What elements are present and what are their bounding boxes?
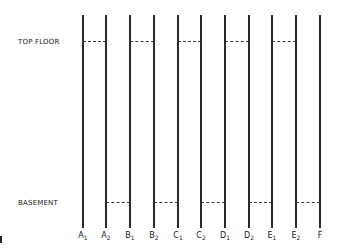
wire-line-f <box>319 15 321 228</box>
wire-line-e2 <box>295 15 297 228</box>
column-label-c2: C2 <box>196 231 205 241</box>
wire-line-a2 <box>105 15 107 228</box>
column-label-b2: B2 <box>149 231 158 241</box>
top-floor-connection-b1-b2 <box>130 41 154 43</box>
top-floor-connection-e1-e2 <box>272 41 296 43</box>
wire-line-c1 <box>177 15 179 228</box>
column-label-c1: C1 <box>173 231 182 241</box>
wire-line-e1 <box>271 15 273 228</box>
wire-line-c2 <box>200 15 202 228</box>
wire-line-a1 <box>82 15 84 228</box>
wire-line-b1 <box>129 15 131 228</box>
column-label-d1: D1 <box>220 231 230 241</box>
column-label-e2: E2 <box>292 231 301 241</box>
basement-label: BASEMENT <box>18 199 58 207</box>
basement-connection-c2-d1 <box>201 202 225 204</box>
column-label-d2: D2 <box>244 231 254 241</box>
column-label-f: F <box>318 231 323 240</box>
column-label-b1: B1 <box>125 231 134 241</box>
top-floor-connection-d1-d2 <box>225 41 249 43</box>
top-floor-connection-c1-c2 <box>178 41 201 43</box>
basement-connection-d2-e1 <box>249 202 272 204</box>
wire-line-b2 <box>153 15 155 228</box>
basement-connection-a2-b1 <box>106 202 130 204</box>
column-label-e1: E1 <box>268 231 277 241</box>
basement-connection-e2-f <box>296 202 320 204</box>
column-label-a2: A2 <box>101 231 110 241</box>
column-label-a1: A1 <box>78 231 87 241</box>
top-floor-label: TOP FLOOR <box>18 38 60 46</box>
wire-line-d2 <box>248 15 250 228</box>
basement-connection-b2-c1 <box>154 202 178 204</box>
edge-mark <box>0 236 2 243</box>
top-floor-connection-a1-a2 <box>83 41 106 43</box>
wire-line-d1 <box>224 15 226 228</box>
